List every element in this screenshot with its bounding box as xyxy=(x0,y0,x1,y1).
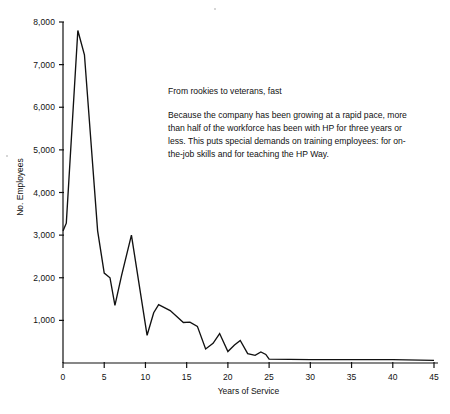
x-tick-label: 25 xyxy=(264,372,274,382)
x-tick-label: 5 xyxy=(102,372,107,382)
x-tick-label: 20 xyxy=(223,372,233,382)
x-axis-title: Years of Service xyxy=(63,386,434,396)
annotation-block: From rookies to veterans, fast Because t… xyxy=(168,86,420,161)
y-tick-label: 7,000 xyxy=(8,60,55,70)
x-tick-label: 30 xyxy=(306,372,316,382)
y-tick-label: 8,000 xyxy=(8,17,55,27)
x-tick-label: 45 xyxy=(429,372,439,382)
annotation-heading: From rookies to veterans, fast xyxy=(168,86,420,98)
x-tick-label: 0 xyxy=(61,372,66,382)
y-tick-label: 2,000 xyxy=(8,273,55,283)
y-tick-label: 6,000 xyxy=(8,102,55,112)
x-tick-label: 15 xyxy=(182,372,192,382)
x-tick-label: 40 xyxy=(388,372,398,382)
y-axis-title: No. Employees xyxy=(15,137,25,237)
line-chart-canvas xyxy=(0,0,450,414)
x-tick-label: 35 xyxy=(347,372,357,382)
annotation-body: Because the company has been growing at … xyxy=(168,109,420,161)
x-tick-label: 10 xyxy=(141,372,151,382)
chart-figure: 1,0002,0003,0004,0005,0006,0007,0008,000… xyxy=(0,0,450,414)
axes xyxy=(63,22,438,363)
y-tick-label: 1,000 xyxy=(8,315,55,325)
employee-count-line xyxy=(63,31,434,361)
